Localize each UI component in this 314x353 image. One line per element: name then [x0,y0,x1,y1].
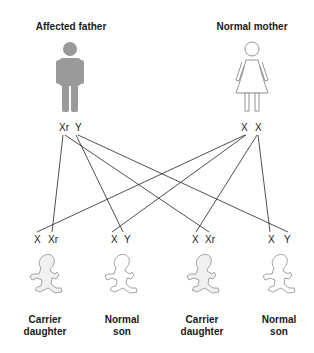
baby-icon-1 [30,254,62,293]
child2-allele-2: Y [124,234,131,245]
child3-allele-2: Xr [205,234,215,245]
mother-title: Normal mother [216,21,287,32]
mother-allele-1: X [241,122,248,133]
father-title: Affected father [36,21,107,32]
child1-label: Carrierdaughter [15,314,75,338]
child4-allele-1: X [268,234,275,245]
child3-allele-1: X [192,234,199,245]
child2-allele-1: X [111,234,118,245]
child4-label: Normalson [249,314,309,338]
affected-father-icon [56,42,84,112]
child2-label: Normalson [92,314,152,338]
child3-label: Carrierdaughter [172,314,232,338]
baby-icons [30,254,295,293]
father-allele-2: Y [75,122,82,133]
normal-mother-icon [236,42,268,111]
child4-allele-2: Y [284,234,291,245]
baby-icon-3 [187,254,219,293]
inheritance-lines [0,0,314,353]
mother-allele-2: X [255,122,262,133]
baby-icon-2 [105,254,137,293]
father-allele-1: Xr [59,122,69,133]
child1-allele-1: X [34,234,41,245]
baby-icon-4 [263,254,295,293]
child1-allele-2: Xr [48,234,58,245]
